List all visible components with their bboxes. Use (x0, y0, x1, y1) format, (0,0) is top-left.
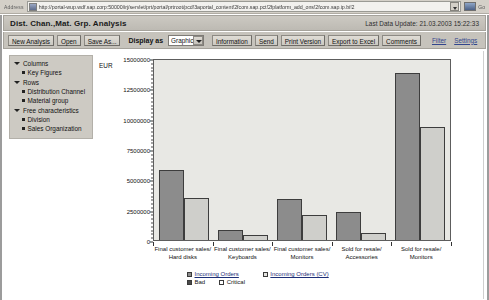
x-axis-tick-label: Final customer sales/Keyboards (213, 246, 273, 261)
sidebar-item-label: Columns (23, 60, 48, 67)
internet-explorer-icon (29, 3, 37, 11)
y-axis-tick-label: 5000000 (127, 178, 150, 184)
sidebar-item-label: Rows (23, 79, 39, 86)
y-axis-tick-label: 2500000 (127, 209, 150, 215)
chevron-down-icon[interactable] (193, 36, 203, 45)
sidebar-item-label: Free characteristics (23, 107, 79, 114)
print-version-button[interactable]: Print Version (281, 35, 325, 46)
content-area: Columns Key Figures Rows Distribution Ch… (3, 51, 486, 299)
bullet-icon (22, 99, 25, 102)
legend-item: Critical (219, 279, 245, 285)
legend-item: Bad (187, 279, 205, 285)
toolbar: New Analysis Open Save As... Display as … (3, 32, 486, 49)
nav-group-free-characteristics: Free characteristics Division Sales Orga… (12, 106, 90, 133)
last-data-update-value: 21.03.2003 15:22:33 (419, 20, 479, 27)
address-url-text: http://portal-wup.wdf.sap.corp:50000/irj… (39, 4, 449, 10)
go-arrow-icon (464, 2, 476, 11)
sidebar-item-material-group[interactable]: Material group (12, 96, 90, 105)
nav-group-columns: Columns Key Figures (12, 59, 90, 77)
chart-bar[interactable] (395, 73, 420, 240)
chevron-down-icon[interactable] (450, 2, 459, 11)
chart-bar[interactable] (243, 235, 268, 240)
legend-label: Incoming Orders (CV) (270, 271, 328, 277)
chart-bar[interactable] (302, 215, 327, 240)
legend-item[interactable]: Incoming Orders (187, 271, 239, 277)
chart-bar[interactable] (277, 199, 302, 240)
chart-x-axis: Final customer sales/Hard disksFinal cus… (153, 242, 451, 268)
legend-swatch-icon (263, 272, 268, 277)
chart-bars (154, 60, 450, 240)
x-axis-tick-mark (451, 242, 452, 246)
address-label: Address (2, 4, 24, 10)
page-title: Dist. Chan.,Mat. Grp. Analysis (10, 19, 127, 28)
sidebar-item-distribution-channel[interactable]: Distribution Channel (12, 87, 90, 96)
legend-label: Bad (195, 279, 206, 285)
bullet-icon (22, 71, 25, 74)
sidebar-item-label: Material group (28, 97, 69, 104)
navigation-pane: Columns Key Figures Rows Distribution Ch… (9, 55, 93, 139)
address-input[interactable]: http://portal-wup.wdf.sap.corp:50000/irj… (27, 1, 462, 12)
chart-bar[interactable] (218, 230, 243, 240)
chart: EUR 025000005000000750000010000000125000… (99, 53, 488, 296)
browser-address-bar: Address http://portal-wup.wdf.sap.corp:5… (0, 0, 489, 14)
bullet-icon (22, 127, 25, 130)
triangle-down-icon (14, 62, 20, 65)
new-analysis-button[interactable]: New Analysis (8, 35, 54, 46)
settings-link[interactable]: Settings (454, 37, 477, 44)
information-button[interactable]: Information (212, 35, 252, 46)
sidebar-item-key-figures[interactable]: Key Figures (12, 68, 90, 77)
legend-swatch-icon (219, 280, 224, 285)
legend-swatch-icon (187, 280, 192, 285)
filter-link[interactable]: Filter (432, 37, 446, 44)
sidebar-item-free-characteristics[interactable]: Free characteristics (12, 106, 90, 115)
chart-bar[interactable] (361, 233, 386, 240)
display-as-select[interactable]: Graphic (168, 35, 204, 46)
sidebar-item-label: Distribution Channel (28, 88, 86, 95)
bullet-icon (22, 90, 25, 93)
bullet-icon (22, 118, 25, 121)
page-frame: Dist. Chan.,Mat. Grp. Analysis Last Data… (0, 15, 489, 300)
go-button[interactable]: Go (464, 2, 487, 11)
triangle-down-icon (14, 109, 20, 112)
legend-swatch-icon (187, 272, 192, 277)
last-data-update: Last Data Update: 21.03.2003 15:22:33 (365, 20, 479, 27)
sidebar-item-sales-organization[interactable]: Sales Organization (12, 124, 90, 133)
y-axis-tick-label: 15000000 (123, 57, 150, 63)
export-to-excel-button[interactable]: Export to Excel (328, 35, 379, 46)
x-axis-tick-label: Sold for resale/Accessories (332, 246, 392, 261)
last-data-update-label: Last Data Update: (365, 20, 417, 27)
legend-label: Incoming Orders (195, 271, 239, 277)
legend-row: Incoming OrdersIncoming Orders (CV) (187, 271, 417, 277)
sidebar-item-label: Division (28, 116, 50, 123)
y-axis-tick-label: 10000000 (123, 118, 150, 124)
bar-group (332, 60, 391, 240)
sidebar-item-label: Sales Organization (28, 125, 82, 132)
chart-bar[interactable] (184, 198, 209, 240)
legend-item[interactable]: Incoming Orders (CV) (263, 271, 329, 277)
send-button[interactable]: Send (255, 35, 278, 46)
display-as-label: Display as (128, 37, 163, 44)
y-axis-tick-label: 12500000 (123, 87, 150, 93)
scroll-gutter (483, 51, 486, 299)
sidebar-item-division[interactable]: Division (12, 115, 90, 124)
chart-plot-area (153, 59, 451, 241)
sidebar-item-label: Key Figures (28, 69, 62, 76)
x-axis-tick-label: Final customer sales/Monitors (272, 246, 332, 261)
chart-bar[interactable] (420, 127, 445, 240)
y-axis-tick-label: 7500000 (127, 148, 150, 154)
bar-group (272, 60, 331, 240)
sidebar-item-rows[interactable]: Rows (12, 78, 90, 87)
save-as-button[interactable]: Save As... (84, 35, 121, 46)
open-button[interactable]: Open (57, 35, 81, 46)
chart-bar[interactable] (159, 170, 184, 240)
chart-legend: Incoming OrdersIncoming Orders (CV) BadC… (187, 271, 417, 287)
app-header: Dist. Chan.,Mat. Grp. Analysis Last Data… (3, 15, 486, 31)
legend-label: Critical (227, 279, 245, 285)
chart-bar[interactable] (336, 212, 361, 240)
go-label: Go (478, 4, 485, 10)
legend-row: BadCritical (187, 279, 417, 285)
display-as-value: Graphic (171, 37, 193, 44)
sidebar-item-columns[interactable]: Columns (12, 59, 90, 68)
comments-button[interactable]: Comments (382, 35, 421, 46)
chart-y-axis: 0250000050000007500000100000001250000015… (99, 59, 153, 242)
